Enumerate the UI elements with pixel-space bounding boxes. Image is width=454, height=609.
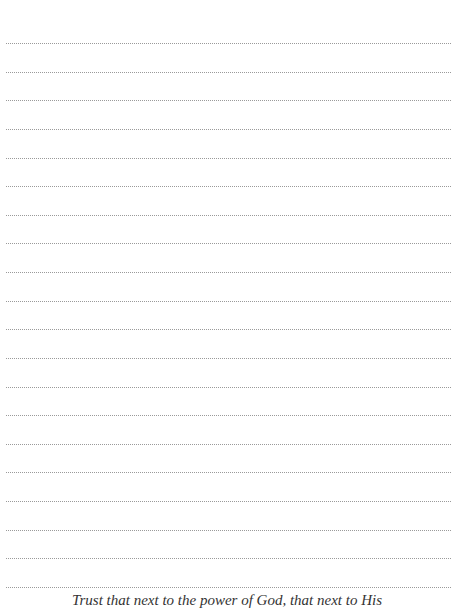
ruled-line [6, 358, 451, 359]
ruled-line [6, 272, 451, 273]
ruled-line [6, 587, 451, 588]
ruled-line [6, 558, 451, 559]
footer-quote: Trust that next to the power of God, tha… [0, 591, 454, 609]
ruled-line [6, 501, 451, 502]
ruled-line [6, 472, 451, 473]
ruled-line [6, 186, 451, 187]
ruled-line [6, 72, 451, 73]
ruled-line [6, 100, 451, 101]
ruled-line [6, 158, 451, 159]
ruled-line [6, 43, 451, 44]
ruled-line [6, 129, 451, 130]
ruled-line [6, 387, 451, 388]
ruled-line [6, 415, 451, 416]
ruled-line [6, 444, 451, 445]
ruled-line [6, 243, 451, 244]
ruled-line [6, 215, 451, 216]
ruled-line [6, 530, 451, 531]
ruled-line [6, 329, 451, 330]
ruled-line [6, 301, 451, 302]
